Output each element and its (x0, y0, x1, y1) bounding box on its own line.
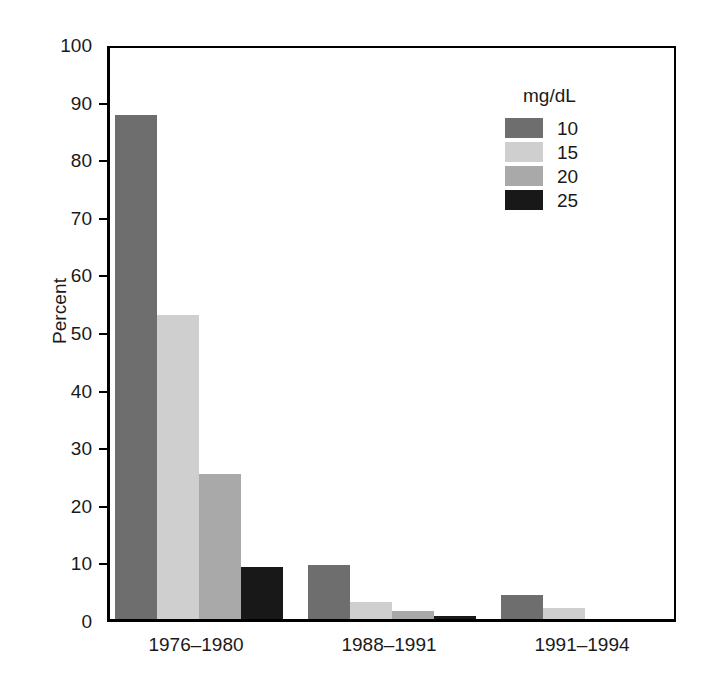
bar (501, 595, 543, 619)
legend-entry: 20 (505, 166, 655, 186)
bar (115, 115, 157, 619)
legend-entry: 10 (505, 118, 655, 138)
x-axis-tick-label: 1988–1991 (299, 634, 479, 656)
legend-swatch-icon (505, 118, 543, 138)
y-axis-tick-label: 90 (22, 94, 92, 113)
bar-chart: Percent 1009080706050403020100 1976–1980… (0, 0, 704, 676)
bar (308, 565, 350, 619)
legend-label: 20 (557, 167, 578, 186)
bar (543, 608, 585, 619)
y-axis-tick-label: 80 (22, 151, 92, 170)
legend-title: mg/dL (523, 85, 655, 107)
y-axis-tick-label: 70 (22, 209, 92, 228)
bar (434, 616, 476, 619)
y-axis-tick-label: 0 (22, 612, 92, 631)
y-axis-tick-label: 10 (22, 554, 92, 573)
legend-swatch-icon (505, 190, 543, 210)
y-axis-tick-label: 40 (22, 382, 92, 401)
y-axis-tick-label: 60 (22, 266, 92, 285)
legend-label: 10 (557, 119, 578, 138)
bar (392, 611, 434, 619)
legend-entry: 25 (505, 190, 655, 210)
y-axis-tick-label: 20 (22, 497, 92, 516)
bar (241, 567, 283, 619)
bar (199, 474, 241, 619)
legend-swatch-icon (505, 166, 543, 186)
legend: mg/dL 10152025 (505, 85, 655, 214)
legend-swatch-icon (505, 142, 543, 162)
x-axis-tick-label: 1991–1994 (492, 634, 672, 656)
legend-label: 25 (557, 191, 578, 210)
legend-label: 15 (557, 143, 578, 162)
bar (157, 315, 199, 619)
legend-entries: 10152025 (505, 118, 655, 210)
bar (350, 602, 392, 619)
y-axis-tick-label: 50 (22, 324, 92, 343)
y-axis-tick-label: 30 (22, 439, 92, 458)
y-axis-tick-label: 100 (22, 36, 92, 55)
legend-entry: 15 (505, 142, 655, 162)
x-axis-tick-label: 1976–1980 (106, 634, 286, 656)
